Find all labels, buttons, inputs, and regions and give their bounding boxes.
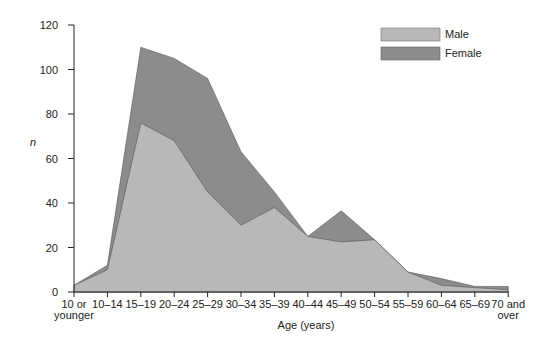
plot-area <box>74 47 508 292</box>
x-axis: 10 oryounger10–1415–1920–2425–2930–3435–… <box>54 292 525 321</box>
x-tick-label: 35–39 <box>259 298 290 310</box>
x-tick-label-line2: over <box>497 309 519 321</box>
legend-label-female: Female <box>445 47 482 59</box>
y-tick-label: 40 <box>46 197 58 209</box>
legend-swatch-male <box>381 28 440 41</box>
x-tick-label: 60–64 <box>426 298 457 310</box>
y-axis: 020406080100120 <box>40 19 74 298</box>
x-tick-label-line2: younger <box>54 309 94 321</box>
y-tick-label: 0 <box>52 286 58 298</box>
x-tick-label: 55–59 <box>393 298 424 310</box>
male-area <box>74 123 508 292</box>
x-tick-label: 40–44 <box>293 298 324 310</box>
y-tick-label: 120 <box>40 19 58 31</box>
y-tick-label: 80 <box>46 108 58 120</box>
x-tick-label: 45–49 <box>326 298 357 310</box>
x-tick-label: 10–14 <box>92 298 123 310</box>
x-tick-label: 15–19 <box>126 298 157 310</box>
x-tick-label: 65–69 <box>460 298 491 310</box>
area-chart: 020406080100120 10 oryounger10–1415–1920… <box>0 0 544 344</box>
x-tick-label: 30–34 <box>226 298 257 310</box>
x-tick-label: 20–24 <box>159 298 190 310</box>
legend: Male Female <box>381 28 482 60</box>
x-tick-label: 50–54 <box>359 298 390 310</box>
x-axis-title: Age (years) <box>278 319 335 331</box>
y-axis-title: n <box>30 136 36 148</box>
x-tick-label: 25–29 <box>192 298 223 310</box>
legend-swatch-female <box>381 47 440 60</box>
legend-label-male: Male <box>445 28 469 40</box>
y-tick-label: 60 <box>46 153 58 165</box>
y-tick-label: 20 <box>46 242 58 254</box>
y-tick-label: 100 <box>40 64 58 76</box>
